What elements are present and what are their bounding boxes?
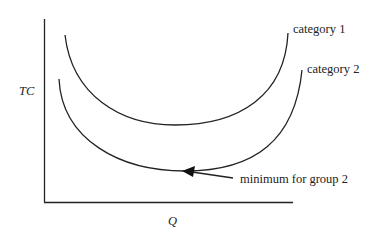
- curve-category-1: [65, 33, 288, 125]
- y-axis-label: TC: [19, 84, 34, 99]
- annotation-arrow-line: [192, 172, 233, 178]
- curve-label-category-1: category 1: [293, 22, 345, 37]
- arrow-head-icon: [182, 166, 195, 177]
- curve-category-2: [59, 70, 302, 171]
- curve-label-category-2: category 2: [307, 62, 359, 77]
- x-axis-label: Q: [168, 214, 177, 229]
- annotation-label: minimum for group 2: [240, 172, 348, 187]
